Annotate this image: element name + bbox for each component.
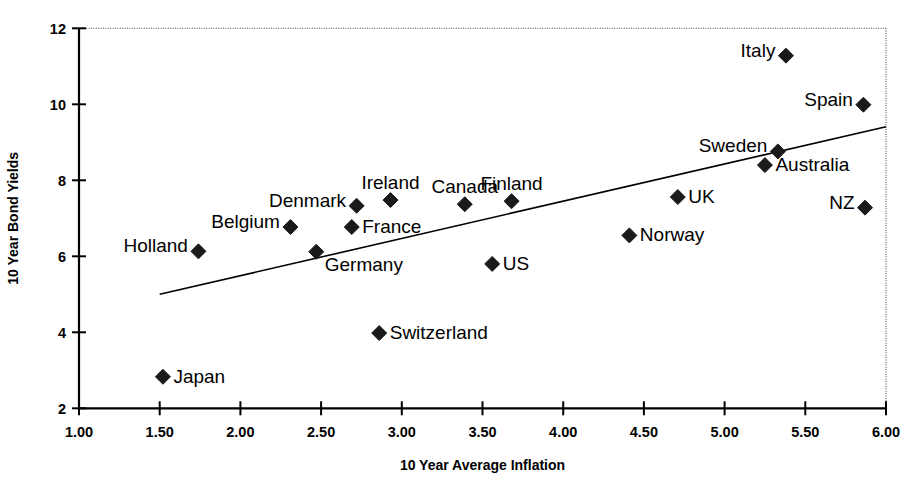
data-point-marker xyxy=(372,326,387,341)
data-point-label: France xyxy=(362,216,421,237)
data-point-marker xyxy=(622,228,637,243)
x-tick-label: 1.50 xyxy=(146,424,174,440)
data-point-marker xyxy=(485,256,500,271)
data-point-label: Japan xyxy=(173,366,225,387)
data-point-marker xyxy=(504,194,519,209)
x-tick-label: 3.00 xyxy=(388,424,416,440)
data-point-label: Spain xyxy=(804,89,853,110)
data-point-label: Italy xyxy=(741,40,776,61)
data-point-label: Switzerland xyxy=(390,322,488,343)
data-point-label: Norway xyxy=(640,224,705,245)
data-points: JapanHollandBelgiumDenmarkFranceSwitzerl… xyxy=(123,40,872,387)
data-point-label: Australia xyxy=(775,154,849,175)
data-point-marker xyxy=(778,48,793,63)
x-axis-title: 10 Year Average Inflation xyxy=(400,457,565,473)
data-point-label: Denmark xyxy=(269,190,347,211)
y-tick-label: 10 xyxy=(50,97,66,113)
plot-area: 1.001.502.002.503.003.504.004.505.005.50… xyxy=(0,0,918,490)
data-point-marker xyxy=(155,369,170,384)
plot-frame xyxy=(79,28,886,408)
data-point-label: UK xyxy=(688,186,715,207)
data-point-label: US xyxy=(503,253,529,274)
y-tick-label: 12 xyxy=(50,21,66,37)
data-point-marker xyxy=(349,198,364,213)
y-tick-label: 8 xyxy=(58,173,66,189)
x-tick-label: 2.50 xyxy=(307,424,335,440)
data-point-label: Ireland xyxy=(361,172,419,193)
data-point-marker xyxy=(856,97,871,112)
data-point-label: Holland xyxy=(123,235,187,256)
data-point-label: NZ xyxy=(829,192,855,213)
data-point-marker xyxy=(670,190,685,205)
data-point-label: Belgium xyxy=(211,211,280,232)
y-tick-label: 6 xyxy=(58,249,66,265)
data-point-marker xyxy=(457,197,472,212)
axis-ticks xyxy=(72,28,886,415)
y-tick-label: 4 xyxy=(58,325,66,341)
x-tick-label: 5.00 xyxy=(710,424,738,440)
x-tick-label: 6.00 xyxy=(872,424,900,440)
data-point-label: Sweden xyxy=(699,135,768,156)
x-tick-label: 1.00 xyxy=(65,424,93,440)
y-axis-title: 10 Year Bond Yields xyxy=(5,152,21,285)
data-point-label: Germany xyxy=(325,254,404,275)
x-tick-label: 5.50 xyxy=(791,424,819,440)
x-tick-label: 2.00 xyxy=(226,424,254,440)
data-point-label: Finland xyxy=(480,173,542,194)
data-point-marker xyxy=(344,220,359,235)
x-tick-label: 3.50 xyxy=(468,424,496,440)
x-tick-label: 4.50 xyxy=(630,424,658,440)
data-point-marker xyxy=(191,244,206,259)
data-point-marker xyxy=(383,193,398,208)
scatter-chart: 1.001.502.002.503.003.504.004.505.005.50… xyxy=(0,0,918,490)
data-point-marker xyxy=(283,220,298,235)
data-point-marker xyxy=(757,158,772,173)
y-tick-label: 2 xyxy=(58,401,66,417)
x-tick-label: 4.00 xyxy=(549,424,577,440)
data-point-marker xyxy=(858,200,873,215)
